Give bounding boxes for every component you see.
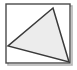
figure-canvas: Triangle inscribed in a rectangle	[0, 0, 77, 70]
triangle-in-rectangle-figure	[0, 0, 77, 70]
